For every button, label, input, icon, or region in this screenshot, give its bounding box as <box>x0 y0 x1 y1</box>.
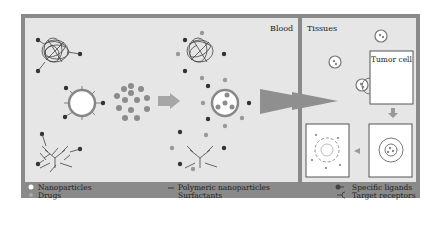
nanoparticle-icon <box>63 86 105 120</box>
loaded-nanoparticle-icon <box>201 78 251 128</box>
legend-receptors: Target receptors <box>352 191 416 200</box>
big-arrow-icon <box>260 89 338 114</box>
endocytosis-box <box>369 124 412 177</box>
blood-label: Blood <box>270 24 293 33</box>
legend-surfactants: Surfactants <box>178 191 222 200</box>
drug-release-box <box>306 124 349 177</box>
polymeric-nanoparticle-icon <box>42 38 69 62</box>
legend-drug-icon <box>29 193 33 197</box>
legend-drugs: Drugs <box>38 191 61 200</box>
dendrimer-icon <box>40 146 72 172</box>
tumor-cell-label: Tumor cell <box>371 55 412 64</box>
drugs-cluster-icon <box>114 83 150 121</box>
tissues-label: Tissues <box>307 24 337 33</box>
legend-receptor-icon <box>337 192 345 198</box>
legend-ligand-icon <box>336 185 345 190</box>
legend-nanoparticle-icon <box>29 185 34 190</box>
polymeric-loaded-icon <box>187 38 213 62</box>
arrow-icon <box>158 93 180 109</box>
